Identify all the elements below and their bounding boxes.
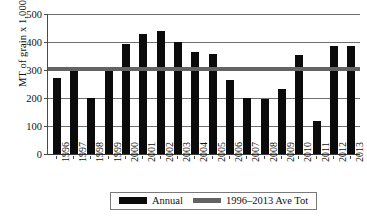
x-tick-1996 xyxy=(56,156,57,159)
legend-item-annual[interactable]: Annual xyxy=(119,195,183,206)
y-tick-label-0: 0 xyxy=(37,149,42,160)
y-tick-label-100: 100 xyxy=(26,121,42,132)
annual-swatch-icon xyxy=(119,197,147,204)
x-tick-2002 xyxy=(160,156,161,159)
chart-legend: Annual 1996–2013 Ave Tot xyxy=(110,192,317,210)
x-label-2004: 2004 xyxy=(198,130,209,162)
x-label-2002: 2002 xyxy=(164,130,175,162)
x-label-2011: 2011 xyxy=(320,130,331,162)
x-label-2010: 2010 xyxy=(302,130,313,162)
x-tick-2003 xyxy=(177,156,178,159)
x-label-1997: 1997 xyxy=(77,130,88,162)
x-label-1998: 1998 xyxy=(94,130,105,162)
x-axis-labels: 1996199719981999200020012002200320042005… xyxy=(47,156,359,190)
y-tick-label-200: 200 xyxy=(26,93,42,104)
x-label-1999: 1999 xyxy=(112,130,123,162)
x-tick-2012 xyxy=(333,156,334,159)
average-swatch-icon xyxy=(193,198,221,203)
y-tick-label-400: 400 xyxy=(26,37,42,48)
x-label-2008: 2008 xyxy=(268,130,279,162)
y-tick-label-300: 300 xyxy=(26,65,42,76)
legend-label-annual: Annual xyxy=(152,195,183,206)
y-tick-0 xyxy=(44,154,48,155)
x-label-2012: 2012 xyxy=(337,130,348,162)
bar-chart: MT of grain x 1,000 0100200300400500 199… xyxy=(0,0,367,221)
x-label-2013: 2013 xyxy=(354,130,365,162)
x-tick-2011 xyxy=(316,156,317,159)
x-tick-2008 xyxy=(264,156,265,159)
x-label-1996: 1996 xyxy=(60,130,71,162)
x-tick-2013 xyxy=(350,156,351,159)
x-tick-2001 xyxy=(142,156,143,159)
x-tick-2006 xyxy=(229,156,230,159)
x-tick-2004 xyxy=(194,156,195,159)
average-line xyxy=(48,67,360,72)
x-tick-2000 xyxy=(125,156,126,159)
x-tick-2009 xyxy=(281,156,282,159)
y-tick-label-500: 500 xyxy=(26,9,42,20)
x-label-2000: 2000 xyxy=(129,130,140,162)
x-tick-2005 xyxy=(212,156,213,159)
x-label-2009: 2009 xyxy=(285,130,296,162)
x-label-2007: 2007 xyxy=(250,130,261,162)
x-label-2001: 2001 xyxy=(146,130,157,162)
x-tick-1997 xyxy=(73,156,74,159)
legend-label-average: 1996–2013 Ave Tot xyxy=(226,195,308,206)
legend-item-average[interactable]: 1996–2013 Ave Tot xyxy=(193,195,308,206)
x-label-2006: 2006 xyxy=(233,130,244,162)
x-label-2003: 2003 xyxy=(181,130,192,162)
x-tick-2010 xyxy=(298,156,299,159)
x-tick-1999 xyxy=(108,156,109,159)
x-tick-1998 xyxy=(90,156,91,159)
x-tick-2007 xyxy=(246,156,247,159)
x-label-2005: 2005 xyxy=(216,130,227,162)
